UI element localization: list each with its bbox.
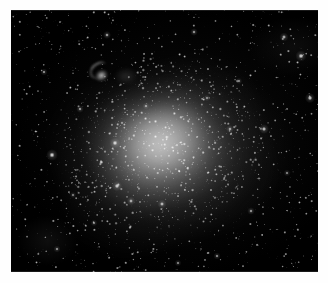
plate-vignette [11,10,318,272]
screenshot-root [0,0,328,283]
resolved-member-stars [11,10,318,272]
plate-edge-bottom [11,271,318,272]
sky-fog-primary [11,10,318,272]
companion-core [93,67,110,83]
sky-fog-secondary [11,10,318,272]
galaxy-core-glow [112,99,210,185]
plate-edge-top [11,10,318,11]
background-starfield [11,10,318,272]
faint-diffuse-patch [115,68,137,84]
companion-arm [87,59,111,81]
sky-plate [11,10,318,272]
galaxy-halo-mid [76,71,243,221]
companion-nebula [87,62,113,84]
galaxy-halo-outer [37,42,287,268]
